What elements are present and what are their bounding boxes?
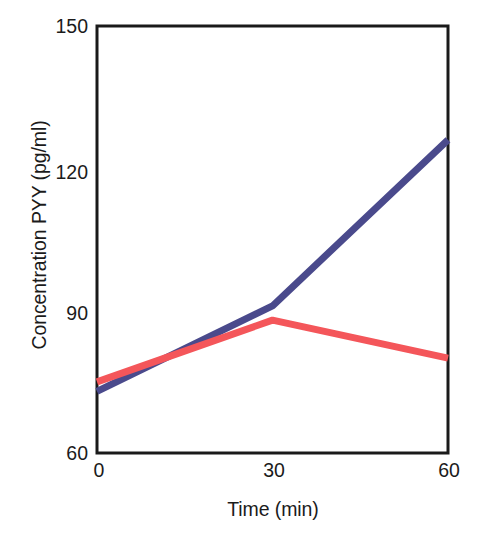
data-line-blue bbox=[97, 140, 448, 391]
axis-frame bbox=[97, 26, 448, 453]
plot-area bbox=[0, 0, 481, 540]
data-line-red bbox=[97, 320, 448, 382]
chart-figure: Concentration PYY (pg/ml) 150 120 90 60 … bbox=[0, 0, 481, 540]
